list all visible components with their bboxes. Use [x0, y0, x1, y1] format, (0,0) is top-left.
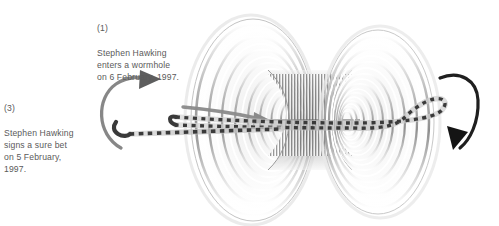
wormhole-diagram-figure: (1) Stephen Hawking enters a wormhole on… — [0, 0, 499, 226]
dashed-worldline-left-terminus — [170, 117, 176, 125]
wormhole-illustration — [0, 0, 499, 226]
right-rotation-arrow — [440, 75, 478, 150]
